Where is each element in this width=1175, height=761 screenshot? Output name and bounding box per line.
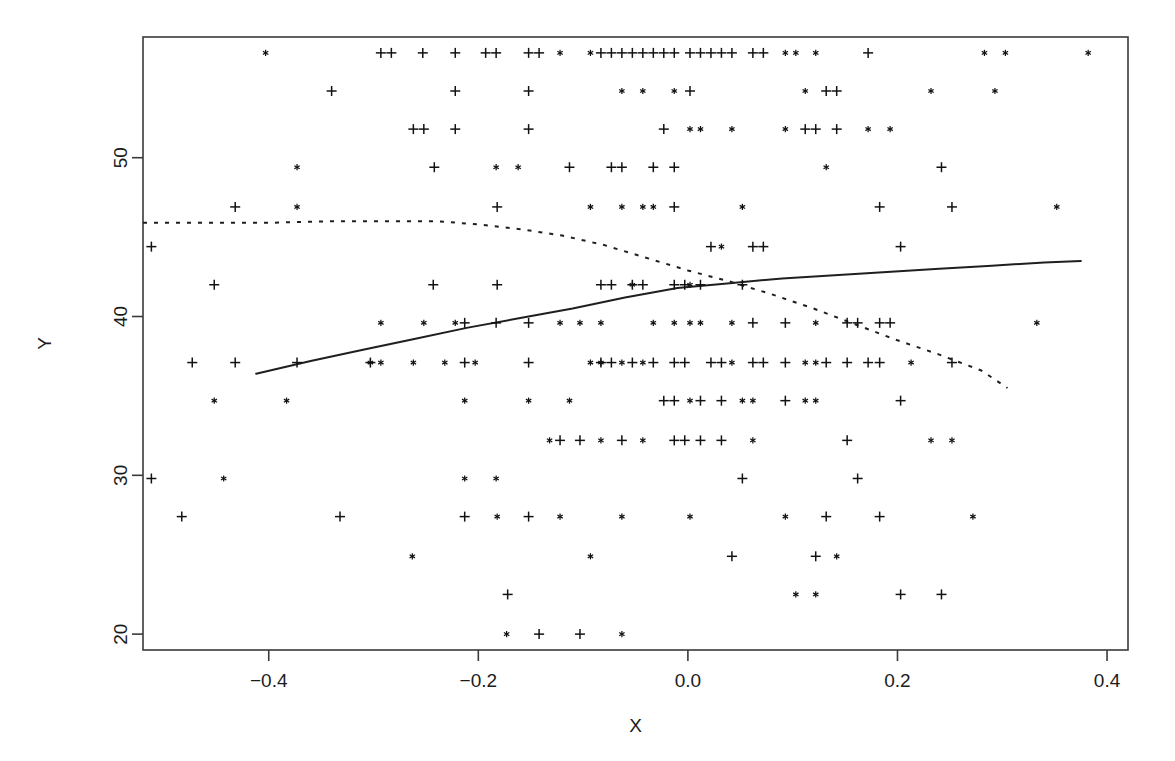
star-marker	[577, 320, 582, 326]
plus-marker	[842, 435, 852, 445]
plus-marker	[669, 162, 679, 172]
plus-marker	[716, 396, 726, 406]
plot-canvas: −0.4−0.20.00.20.4 20304050 X Y	[0, 0, 1175, 761]
star-marker	[263, 50, 268, 56]
plus-marker	[555, 435, 565, 445]
star-marker	[453, 320, 458, 326]
star-marker	[687, 398, 692, 404]
plus-marker	[716, 358, 726, 368]
plus-marker	[885, 318, 895, 328]
star-marker	[803, 398, 808, 404]
plus-marker	[146, 473, 156, 483]
star-marker	[928, 437, 933, 443]
star-marker	[750, 437, 755, 443]
star-marker	[651, 204, 656, 210]
star-marker	[493, 475, 498, 481]
plus-marker	[648, 162, 658, 172]
plus-marker	[842, 318, 852, 328]
plus-marker	[811, 551, 821, 561]
plus-marker	[492, 280, 502, 290]
plus-marker	[627, 48, 637, 58]
plus-marker	[695, 396, 705, 406]
star-marker	[378, 359, 383, 365]
plus-marker	[177, 512, 187, 522]
star-marker	[982, 50, 987, 56]
plus-marker	[524, 48, 534, 58]
star-marker	[887, 126, 892, 132]
plus-marker	[617, 48, 627, 58]
star-marker	[619, 359, 624, 365]
plus-marker	[450, 86, 460, 96]
plus-marker	[758, 242, 768, 252]
x-tick-label: −0.4	[250, 670, 288, 691]
star-marker	[640, 88, 645, 94]
star-marker	[421, 320, 426, 326]
star-marker	[462, 398, 467, 404]
y-axis-title: Y	[34, 337, 55, 350]
plus-marker	[716, 48, 726, 58]
y-axis-ticks	[132, 158, 143, 634]
star-marker	[619, 204, 624, 210]
plus-marker	[821, 358, 831, 368]
plus-marker	[780, 396, 790, 406]
plus-marker	[524, 512, 534, 522]
plus-marker	[534, 629, 544, 639]
star-marker	[803, 359, 808, 365]
plus-marker	[617, 435, 627, 445]
star-marker	[212, 398, 217, 404]
plus-marker	[695, 435, 705, 445]
star-marker	[588, 553, 593, 559]
plus-marker	[821, 86, 831, 96]
x-tick-label: 0.0	[675, 670, 701, 691]
star-marker	[783, 126, 788, 132]
plus-marker	[230, 202, 240, 212]
plus-marker	[669, 48, 679, 58]
x-axis-tick-labels: −0.4−0.20.00.20.4	[250, 670, 1121, 691]
star-marker	[515, 164, 520, 170]
plus-marker	[524, 86, 534, 96]
plus-marker	[418, 48, 428, 58]
star-marker	[557, 514, 562, 520]
plus-marker	[492, 202, 502, 212]
plus-marker	[853, 473, 863, 483]
plus-marker	[408, 124, 418, 134]
star-marker	[687, 320, 692, 326]
plus-marker	[936, 162, 946, 172]
plus-marker	[680, 358, 690, 368]
plus-marker	[706, 358, 716, 368]
plus-marker	[575, 435, 585, 445]
plus-marker	[811, 124, 821, 134]
star-marker	[824, 164, 829, 170]
plus-marker	[659, 396, 669, 406]
plus-marker	[875, 318, 885, 328]
plus-marker	[758, 48, 768, 58]
plus-marker	[669, 435, 679, 445]
solid-fit	[256, 261, 1081, 374]
star-marker	[793, 591, 798, 597]
star-marker	[813, 359, 818, 365]
star-marker	[640, 204, 645, 210]
star-marker	[740, 398, 745, 404]
plus-marker	[230, 358, 240, 368]
x-axis-title: X	[629, 715, 642, 736]
plus-marker	[875, 358, 885, 368]
plus-marker	[596, 280, 606, 290]
plus-marker	[863, 48, 873, 58]
plus-marker	[209, 280, 219, 290]
plus-marker	[748, 48, 758, 58]
star-marker	[588, 204, 593, 210]
plus-marker	[575, 629, 585, 639]
star-marker	[908, 359, 913, 365]
plus-marker	[875, 512, 885, 522]
scatter-plot-figure: −0.4−0.20.00.20.4 20304050 X Y	[0, 0, 1175, 761]
plus-marker	[648, 358, 658, 368]
plus-marker	[780, 358, 790, 368]
plus-marker	[606, 48, 616, 58]
star-marker	[813, 50, 818, 56]
star-marker	[557, 50, 562, 56]
plus-marker	[842, 358, 852, 368]
plus-marker	[680, 435, 690, 445]
plus-marker	[800, 124, 810, 134]
plus-marker	[606, 280, 616, 290]
plus-marker	[685, 86, 695, 96]
